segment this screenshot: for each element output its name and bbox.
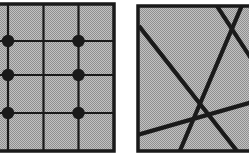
lattice-point-0 <box>2 35 14 47</box>
figure-svg <box>0 0 249 160</box>
lattice-point-5 <box>72 107 84 119</box>
lattice-point-4 <box>2 107 14 119</box>
lines-panel <box>137 3 249 160</box>
lattice-point-1 <box>72 35 84 47</box>
grid-panel-fill <box>0 4 114 151</box>
lattice-point-2 <box>2 69 14 81</box>
grid-panel <box>0 4 114 151</box>
figure-canvas <box>0 0 249 160</box>
lattice-point-3 <box>72 69 84 81</box>
